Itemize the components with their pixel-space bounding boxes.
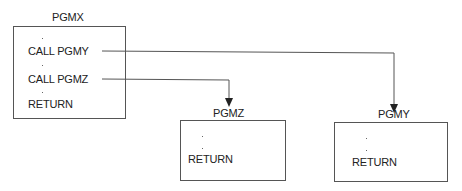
ellipsis-dot [366, 150, 367, 151]
pgmx-call-pgmy: CALL PGMY [28, 45, 89, 57]
pgmy-title: PGMY [378, 108, 410, 120]
pgmx-return: RETURN [28, 98, 73, 110]
ellipsis-dot [42, 92, 43, 93]
ellipsis-dot [42, 65, 43, 66]
pgmx-call-pgmz: CALL PGMZ [28, 73, 88, 85]
ellipsis-dot [366, 138, 367, 139]
ellipsis-dot [202, 148, 203, 149]
pgmy-return: RETURN [352, 156, 397, 168]
pgmy-box [334, 122, 448, 182]
ellipsis-dot [42, 38, 43, 39]
pgmz-return: RETURN [188, 153, 233, 165]
arrow-pgmy [102, 51, 394, 106]
pgmx-title: PGMX [52, 11, 84, 23]
pgmz-box [180, 120, 286, 181]
arrowhead-pgmz-icon [225, 98, 233, 107]
ellipsis-dot [202, 136, 203, 137]
pgmz-title: PGMZ [213, 107, 244, 119]
